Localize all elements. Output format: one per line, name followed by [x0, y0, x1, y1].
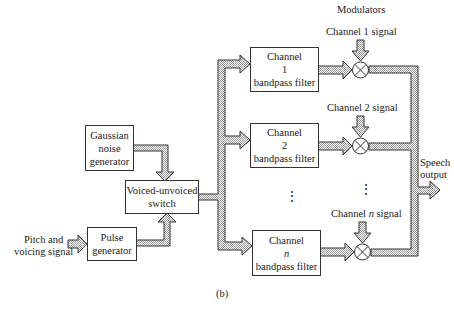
output-label-line-1: Speech — [420, 157, 450, 169]
gaussian-line-1: Gaussian — [90, 129, 129, 142]
input-label-line-1: Pitch and — [14, 234, 73, 246]
channel-2-signal-label: Channel 2 signal — [327, 102, 398, 114]
pulse-line-2: generator — [92, 244, 132, 257]
filter1-line-3: bandpass filter — [254, 76, 316, 89]
modulators-heading: Modulators — [337, 4, 385, 16]
speech-output-label: Speech output — [420, 157, 450, 181]
modulator-n — [355, 244, 371, 260]
figure-caption: (b) — [216, 288, 228, 300]
switch-line-1: Voiced-unvoiced — [127, 184, 198, 197]
channel-1-filter-block: Channel 1 bandpass filter — [250, 47, 319, 92]
modulator-ellipsis: ⋮ — [359, 183, 373, 197]
input-label: Pitch and voicing signal — [14, 234, 73, 258]
gaussian-noise-generator-block: Gaussian noise generator — [85, 125, 134, 171]
filtern-line-2: n — [284, 247, 289, 260]
modulator-2 — [353, 138, 369, 154]
chn-signal-arrow — [354, 222, 371, 243]
channel-2-filter-block: Channel 2 bandpass filter — [250, 123, 319, 168]
filtern-line-1: Channel — [269, 234, 304, 247]
filtern-to-mod-arrow — [320, 243, 354, 261]
channel-n-filter-block: Channel n bandpass filter — [252, 230, 321, 276]
channel-1-signal-label: Channel 1 signal — [326, 26, 397, 38]
gaussian-line-3: generator — [90, 155, 130, 168]
pulse-line-1: Pulse — [101, 231, 124, 244]
pulse-generator-block: Pulse generator — [87, 227, 137, 261]
output-label-line-2: output — [420, 169, 450, 181]
pulse-to-switch-arrow — [136, 213, 176, 246]
filter1-line-1: Channel — [267, 50, 302, 63]
voiced-unvoiced-switch-block: Voiced-unvoiced switch — [125, 180, 199, 214]
filter-ellipsis: ⋮ — [285, 190, 299, 204]
input-label-line-2: voicing signal — [14, 246, 73, 258]
filter2-line-3: bandpass filter — [254, 152, 316, 165]
channel-n-signal-label: Channel n signal — [331, 208, 402, 220]
switch-line-2: switch — [148, 197, 175, 210]
ch1-signal-arrow — [352, 40, 369, 61]
distribution-bus — [198, 55, 252, 255]
modulator-1 — [353, 62, 369, 78]
filter2-line-1: Channel — [267, 126, 302, 139]
filter1-line-2: 1 — [282, 63, 287, 76]
filter2-line-2: 2 — [282, 139, 287, 152]
gaussian-to-switch-arrow — [133, 145, 174, 181]
filtern-line-3: bandpass filter — [256, 260, 318, 273]
ch2-signal-arrow — [352, 116, 369, 137]
filter1-to-mod-arrow — [318, 61, 352, 79]
gaussian-line-2: noise — [98, 142, 120, 155]
filter2-to-mod-arrow — [318, 137, 352, 155]
diagram-canvas — [0, 0, 454, 309]
